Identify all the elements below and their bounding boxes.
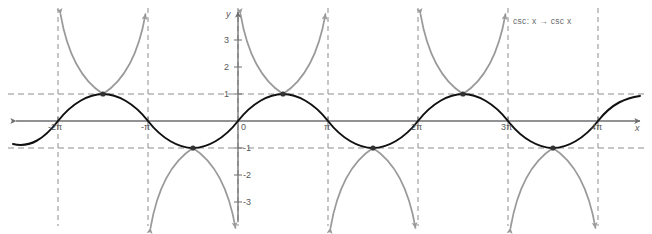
x-tick-label-2pi: 2π [411,123,422,132]
function-legend-text: csc: x → csc x [513,16,572,26]
function-legend-label: csc: x → csc x [513,16,572,26]
x-tick-label-4pi: 4π [591,123,602,132]
trig-graph-svg [0,0,652,234]
x-tick-label-3pi: 3π [501,123,512,132]
y-tick-label-minus-1: -1 [243,144,251,153]
x-tick-label-pi: π [324,123,330,132]
x-tick-label-minus-2pi: -2π [48,123,62,132]
x-axis-label: x [635,124,640,133]
y-axis-label: y [226,10,231,19]
y-tick-label-1: 1 [224,90,229,99]
y-tick-label-minus-3: -3 [243,198,251,207]
x-tick-label-minus-pi: -π [141,123,150,132]
figure-canvas: csc: x → csc x -2π -π 0 π 2π 3π 4π x y 3… [0,0,652,234]
y-tick-label-minus-2: -2 [243,171,251,180]
y-tick-label-3: 3 [224,36,229,45]
origin-label: 0 [241,123,246,132]
y-tick-label-2: 2 [224,63,229,72]
